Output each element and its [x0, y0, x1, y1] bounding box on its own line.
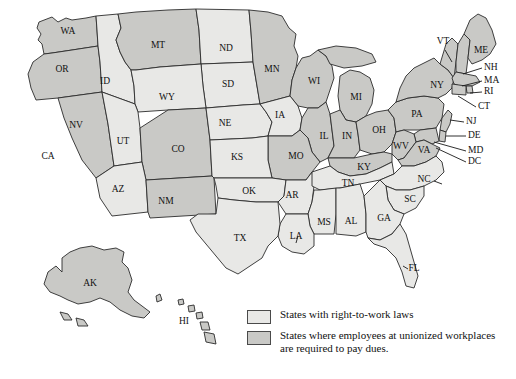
state-label-NC: NC [417, 174, 430, 184]
state-label-NM: NM [158, 196, 174, 206]
state-label-AZ: AZ [112, 184, 125, 194]
state-label-WY: WY [159, 92, 175, 102]
state-label-TX: TX [234, 233, 247, 243]
state-label-AK: AK [83, 278, 97, 288]
state-label-AR: AR [285, 190, 299, 200]
leader-line-NC [434, 181, 442, 184]
legend-swatch-right-to-work [247, 310, 271, 324]
state-label-IL: IL [320, 131, 329, 141]
map-legend: States with right-to-work laws States wh… [247, 308, 497, 359]
state-shape-DE [439, 130, 446, 142]
state-shape-MA [452, 72, 480, 86]
legend-label-union-dues: States where employees at unionized work… [280, 329, 497, 354]
state-label-MI: MI [350, 92, 362, 102]
state-label-AL: AL [345, 216, 358, 226]
state-shape-NM [146, 176, 216, 218]
state-label-FL: FL [408, 263, 419, 273]
state-label-DC: DC [468, 156, 481, 166]
state-shape-NE [206, 104, 272, 140]
state-label-NY: NY [430, 80, 444, 90]
state-shape-WY [131, 64, 206, 112]
state-label-MN: MN [264, 64, 279, 74]
state-shape-AK-island [156, 294, 162, 302]
state-label-SC: SC [404, 194, 416, 204]
state-shape-AL [336, 184, 366, 236]
state-label-OK: OK [242, 186, 256, 196]
state-label-NJ: NJ [466, 116, 477, 126]
state-label-IN: IN [342, 131, 352, 141]
state-shape-HI-3 [196, 312, 203, 319]
state-label-ME: ME [474, 45, 488, 55]
state-shape-ND [196, 9, 253, 64]
state-label-WV: WV [393, 141, 409, 151]
state-shape-AK-aleutians-1 [60, 312, 72, 320]
state-label-UT: UT [117, 136, 130, 146]
state-label-ND: ND [219, 43, 233, 53]
state-label-NH: NH [484, 62, 498, 72]
state-label-TN: TN [342, 178, 355, 188]
state-label-VT: VT [437, 36, 450, 46]
state-label-MS: MS [317, 217, 331, 227]
state-label-DE: DE [468, 130, 481, 140]
state-label-GA: GA [377, 213, 391, 223]
state-label-KY: KY [357, 162, 371, 172]
us-right-to-work-map: WAORIDMTNDSDMNWIMIWYNVUTCONEIAILINOHPACA… [0, 0, 516, 379]
state-shape-RI [466, 86, 473, 93]
state-label-WA: WA [61, 26, 76, 36]
state-label-KS: KS [231, 152, 243, 162]
state-label-LA: LA [290, 231, 303, 241]
legend-entry-right-to-work: States with right-to-work laws [247, 308, 497, 324]
state-shape-HI-5 [204, 332, 216, 344]
state-shape-HI-2 [188, 305, 195, 312]
state-shape-AK [44, 246, 150, 318]
state-label-MT: MT [151, 40, 165, 50]
state-shape-ME [464, 14, 496, 64]
state-label-VA: VA [418, 145, 431, 155]
state-shape-HI-4 [200, 322, 210, 330]
state-label-CA: CA [41, 151, 54, 161]
alaska-group [44, 246, 162, 326]
legend-swatch-union-dues [247, 331, 271, 345]
leader-line-NJ [450, 120, 464, 122]
state-label-WI: WI [308, 76, 320, 86]
state-label-ID: ID [100, 76, 110, 86]
state-shape-AK-aleutians-2 [76, 318, 88, 326]
state-label-PA: PA [411, 109, 422, 119]
state-label-MO: MO [288, 151, 303, 161]
state-label-OH: OH [372, 125, 386, 135]
state-label-MD: MD [468, 145, 483, 155]
legend-label-right-to-work: States with right-to-work laws [280, 308, 414, 321]
state-shape-NH [456, 34, 470, 74]
state-label-NV: NV [69, 120, 83, 130]
state-shape-HI-1 [178, 299, 184, 305]
leader-line-CT [458, 96, 476, 107]
state-label-MA: MA [484, 75, 499, 85]
state-label-RI: RI [484, 86, 494, 96]
legend-entry-union-dues: States where employees at unionized work… [247, 329, 497, 354]
state-label-IA: IA [275, 110, 285, 120]
state-label-CO: CO [171, 144, 184, 154]
state-label-NE: NE [219, 118, 232, 128]
state-label-OR: OR [55, 64, 69, 74]
state-label-SD: SD [222, 79, 234, 89]
state-label-CT: CT [478, 101, 490, 111]
state-label-HI: HI [179, 316, 189, 326]
